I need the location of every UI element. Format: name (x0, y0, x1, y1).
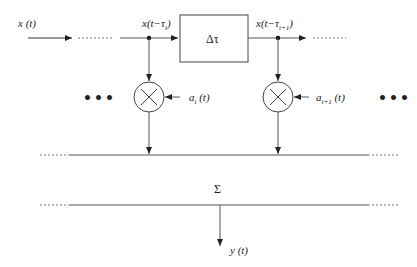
tap-i1-label: x(t−τi+1) (256, 18, 293, 32)
coef-i1-label-arg: (t) (334, 91, 344, 103)
input-label: x (t) (18, 18, 36, 29)
output-label: y (t) (230, 245, 248, 256)
delay-block-label: Δτ (206, 33, 219, 45)
tap-i1-label-sub: i+1 (279, 24, 289, 32)
coef-i-label-sub: i (195, 98, 197, 106)
coef-i-label-arg: (t) (199, 91, 209, 103)
tap-i1-label-close: ) (289, 17, 293, 29)
ellipsis-left: ••• (83, 91, 116, 105)
tap-i-label-close: ) (167, 17, 171, 29)
sum-label: Σ (214, 183, 221, 195)
tap-i1-label-text: x(t−τ (256, 17, 279, 29)
ellipsis-right: ••• (378, 91, 411, 105)
tap-i-label-text: x(t−τ (142, 17, 165, 29)
tap-i-label: x(t−τi) (142, 18, 171, 32)
coef-i1-label: ai+1 (t) (316, 92, 345, 106)
coef-i-label: ai (t) (189, 92, 210, 106)
coef-i1-label-sub: i+1 (322, 98, 332, 106)
